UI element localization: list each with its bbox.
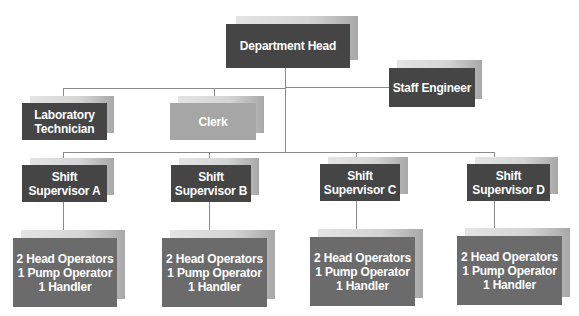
crew-c-box: 2 Head Operators 1 Pump Operator 1 Handl… <box>310 237 415 306</box>
crew-a-label: 2 Head Operators 1 Pump Operator 1 Handl… <box>17 252 114 294</box>
lab-tech-label: Laboratory Technician <box>34 108 95 136</box>
crew-b-box: 2 Head Operators 1 Pump Operator 1 Handl… <box>162 238 267 307</box>
sup-a-label: Shift Supervisor A <box>29 170 101 198</box>
sup-a-box: Shift Supervisor A <box>22 165 107 202</box>
sup-c-label: Shift Supervisor C <box>324 169 396 197</box>
sup-d-box: Shift Supervisor D <box>467 164 550 201</box>
crew-d-label: 2 Head Operators 1 Pump Operator 1 Handl… <box>461 250 558 292</box>
crew-d-box: 2 Head Operators 1 Pump Operator 1 Handl… <box>457 236 562 305</box>
clerk-label: Clerk <box>198 115 227 129</box>
dept-head-box: Department Head <box>226 24 350 68</box>
trunk-line <box>285 68 286 153</box>
crew-b-label: 2 Head Operators 1 Pump Operator 1 Handl… <box>166 252 263 294</box>
lower-branch-line <box>63 152 495 153</box>
staff-engineer-label: Staff Engineer <box>393 81 472 95</box>
sup-b-box: Shift Supervisor B <box>171 165 251 202</box>
staff-engineer-box: Staff Engineer <box>389 68 475 107</box>
staff-line <box>285 87 389 88</box>
sup-c-box: Shift Supervisor C <box>320 164 400 201</box>
sup-b-label: Shift Supervisor B <box>175 170 247 198</box>
upper-branch-line <box>63 88 286 89</box>
crew-a-box: 2 Head Operators 1 Pump Operator 1 Handl… <box>13 238 117 307</box>
crew-c-label: 2 Head Operators 1 Pump Operator 1 Handl… <box>314 251 411 293</box>
clerk-box: Clerk <box>170 103 256 140</box>
lab-tech-box: Laboratory Technician <box>22 103 107 140</box>
dept-head-label: Department Head <box>240 39 336 53</box>
sup-d-label: Shift Supervisor D <box>472 169 544 197</box>
